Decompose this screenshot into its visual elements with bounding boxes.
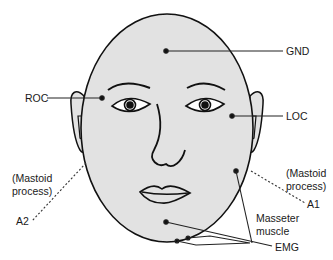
head-outline [81,14,253,242]
gnd-electrode [164,49,168,53]
left-mastoid-label-line1: (Mastoid [12,172,52,184]
loc-electrode [230,114,234,118]
masseter-label-line2: muscle [256,225,289,237]
gnd-label: GND [286,45,309,57]
a2-label: A2 [16,215,29,227]
right-mastoid-label-line2: process) [286,180,326,192]
a1-label: A1 [307,198,320,210]
roc-label: ROC [25,92,48,104]
left-mastoid-label-line2: process) [12,185,52,197]
right-mastoid-label-line1: (Mastoid [286,167,326,179]
chin-electrode [164,220,168,224]
emg-label: EMG [275,241,299,253]
face-electrode-diagram: GND ROC LOC (Mastoid process) A2 (Mastoi… [0,0,333,260]
loc-label: LOC [286,110,308,122]
masseter-label-line1: Masseter [256,212,299,224]
roc-electrode [100,96,104,100]
